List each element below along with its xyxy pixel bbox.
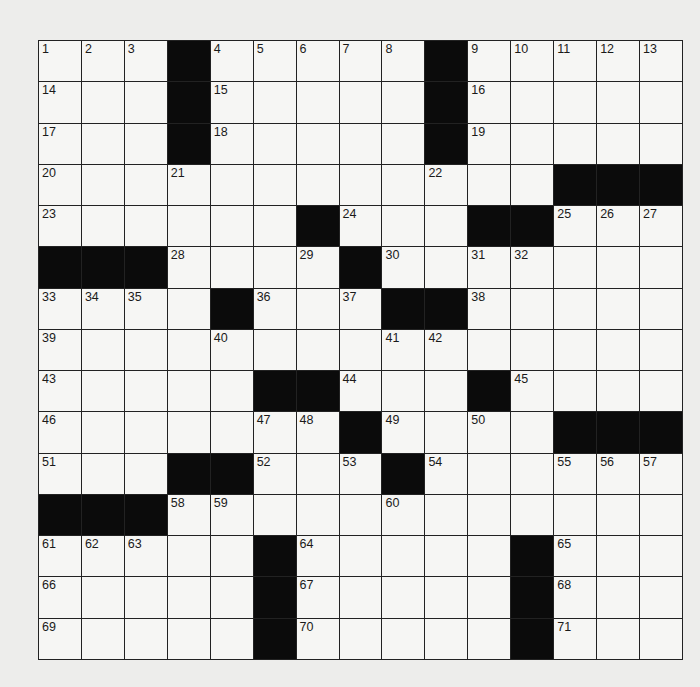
grid-cell[interactable]: [597, 330, 639, 370]
grid-cell[interactable]: [511, 330, 553, 370]
grid-cell[interactable]: [382, 536, 424, 576]
grid-cell[interactable]: [125, 454, 167, 494]
grid-cell[interactable]: [125, 619, 167, 659]
grid-cell[interactable]: 16: [468, 82, 510, 122]
grid-cell[interactable]: [554, 247, 596, 287]
grid-cell[interactable]: 50: [468, 412, 510, 452]
grid-cell[interactable]: 38: [468, 289, 510, 329]
grid-cell[interactable]: [254, 495, 296, 535]
grid-cell[interactable]: 28: [168, 247, 210, 287]
grid-cell[interactable]: [554, 124, 596, 164]
grid-cell[interactable]: 39: [39, 330, 81, 370]
grid-cell[interactable]: [554, 495, 596, 535]
grid-cell[interactable]: [640, 247, 682, 287]
grid-cell[interactable]: [125, 124, 167, 164]
grid-cell[interactable]: [125, 165, 167, 205]
grid-cell[interactable]: 10: [511, 41, 553, 81]
grid-cell[interactable]: [468, 577, 510, 617]
grid-cell[interactable]: [211, 619, 253, 659]
grid-cell[interactable]: [82, 412, 124, 452]
grid-cell[interactable]: [597, 536, 639, 576]
grid-cell[interactable]: [511, 165, 553, 205]
grid-cell[interactable]: 21: [168, 165, 210, 205]
grid-cell[interactable]: [382, 577, 424, 617]
grid-cell[interactable]: [82, 371, 124, 411]
grid-cell[interactable]: [82, 577, 124, 617]
grid-cell[interactable]: [211, 247, 253, 287]
grid-cell[interactable]: 66: [39, 577, 81, 617]
grid-cell[interactable]: [297, 454, 339, 494]
grid-cell[interactable]: 52: [254, 454, 296, 494]
grid-cell[interactable]: [297, 124, 339, 164]
grid-cell[interactable]: [254, 330, 296, 370]
grid-cell[interactable]: [468, 165, 510, 205]
grid-cell[interactable]: [382, 371, 424, 411]
grid-cell[interactable]: [125, 330, 167, 370]
grid-cell[interactable]: [382, 124, 424, 164]
grid-cell[interactable]: [297, 495, 339, 535]
grid-cell[interactable]: [425, 206, 467, 246]
grid-cell[interactable]: 18: [211, 124, 253, 164]
grid-cell[interactable]: [382, 165, 424, 205]
grid-cell[interactable]: 7: [340, 41, 382, 81]
grid-cell[interactable]: 2: [82, 41, 124, 81]
grid-cell[interactable]: [82, 206, 124, 246]
grid-cell[interactable]: 20: [39, 165, 81, 205]
grid-cell[interactable]: [82, 619, 124, 659]
grid-cell[interactable]: [82, 165, 124, 205]
grid-cell[interactable]: 15: [211, 82, 253, 122]
grid-cell[interactable]: 46: [39, 412, 81, 452]
grid-cell[interactable]: 41: [382, 330, 424, 370]
grid-cell[interactable]: [511, 82, 553, 122]
grid-cell[interactable]: [640, 619, 682, 659]
grid-cell[interactable]: [597, 82, 639, 122]
grid-cell[interactable]: 30: [382, 247, 424, 287]
grid-cell[interactable]: [125, 412, 167, 452]
grid-cell[interactable]: [168, 619, 210, 659]
grid-cell[interactable]: [254, 247, 296, 287]
grid-cell[interactable]: [511, 289, 553, 329]
grid-cell[interactable]: [597, 247, 639, 287]
grid-cell[interactable]: 3: [125, 41, 167, 81]
grid-cell[interactable]: [640, 330, 682, 370]
grid-cell[interactable]: [82, 454, 124, 494]
grid-cell[interactable]: [597, 577, 639, 617]
grid-cell[interactable]: [468, 619, 510, 659]
grid-cell[interactable]: 60: [382, 495, 424, 535]
grid-cell[interactable]: [597, 289, 639, 329]
grid-cell[interactable]: 17: [39, 124, 81, 164]
grid-cell[interactable]: [425, 247, 467, 287]
grid-cell[interactable]: [340, 577, 382, 617]
grid-cell[interactable]: 24: [340, 206, 382, 246]
grid-cell[interactable]: 57: [640, 454, 682, 494]
grid-cell[interactable]: [597, 619, 639, 659]
grid-cell[interactable]: [340, 330, 382, 370]
grid-cell[interactable]: 68: [554, 577, 596, 617]
grid-cell[interactable]: [425, 495, 467, 535]
grid-cell[interactable]: [211, 206, 253, 246]
grid-cell[interactable]: 9: [468, 41, 510, 81]
grid-cell[interactable]: 19: [468, 124, 510, 164]
grid-cell[interactable]: [382, 82, 424, 122]
grid-cell[interactable]: 12: [597, 41, 639, 81]
grid-cell[interactable]: [340, 82, 382, 122]
grid-cell[interactable]: [554, 82, 596, 122]
grid-cell[interactable]: 13: [640, 41, 682, 81]
grid-cell[interactable]: [125, 206, 167, 246]
grid-cell[interactable]: [297, 289, 339, 329]
grid-cell[interactable]: [597, 371, 639, 411]
grid-cell[interactable]: [468, 454, 510, 494]
grid-cell[interactable]: 4: [211, 41, 253, 81]
grid-cell[interactable]: 42: [425, 330, 467, 370]
grid-cell[interactable]: [640, 495, 682, 535]
grid-cell[interactable]: [554, 371, 596, 411]
grid-cell[interactable]: 49: [382, 412, 424, 452]
grid-cell[interactable]: [340, 124, 382, 164]
grid-cell[interactable]: [168, 577, 210, 617]
grid-cell[interactable]: 5: [254, 41, 296, 81]
grid-cell[interactable]: 58: [168, 495, 210, 535]
grid-cell[interactable]: 45: [511, 371, 553, 411]
grid-cell[interactable]: 63: [125, 536, 167, 576]
grid-cell[interactable]: [211, 165, 253, 205]
grid-cell[interactable]: [640, 289, 682, 329]
